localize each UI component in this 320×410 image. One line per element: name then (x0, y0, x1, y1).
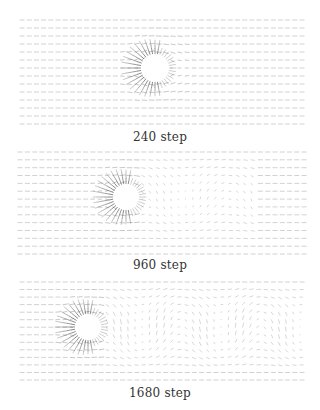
velocity-arrow (286, 297, 289, 298)
velocity-arrow (264, 297, 267, 298)
velocity-arrow (250, 296, 253, 297)
velocity-arrow (70, 342, 74, 343)
velocity-arrow (243, 364, 247, 365)
velocity-arrow (279, 350, 281, 352)
velocity-arrow (60, 331, 63, 332)
velocity-arrow (77, 337, 79, 339)
velocity-arrow (171, 340, 173, 342)
velocity-arrow (214, 357, 217, 358)
velocity-arrow (271, 327, 272, 330)
velocity-arrow (164, 289, 168, 290)
velocity-arrow (279, 297, 282, 299)
velocity-arrow (286, 335, 287, 339)
velocity-arrow (185, 335, 187, 337)
velocity-arrow (207, 290, 210, 291)
velocity-arrow (97, 316, 98, 317)
velocity-arrow (75, 304, 76, 306)
velocity-arrow (228, 340, 229, 342)
velocity-arrow (142, 312, 143, 313)
velocity-arrow (121, 342, 123, 345)
velocity-arrow (71, 306, 73, 308)
velocity-arrow (200, 365, 204, 366)
velocity-arrow (235, 331, 236, 335)
velocity-arrow (113, 335, 114, 338)
velocity-arrow (171, 364, 175, 365)
velocity-arrow (128, 342, 129, 345)
velocity-arrow (100, 320, 101, 321)
velocity-arrow (64, 323, 67, 324)
velocity-arrow (74, 334, 77, 336)
velocity-arrow (279, 342, 281, 345)
velocity-arrow (235, 364, 238, 365)
velocity-arrow (228, 356, 231, 357)
velocity-arrow (214, 312, 215, 314)
velocity-arrow (250, 310, 252, 312)
velocity-arrow (106, 350, 109, 351)
velocity-arrow (113, 357, 116, 358)
velocity-arrow (77, 314, 79, 316)
velocity-arrow (70, 336, 73, 338)
velocity-arrow (64, 331, 67, 332)
velocity-arrow (250, 356, 253, 357)
velocity-arrow (71, 346, 73, 348)
velocity-arrow (286, 320, 287, 324)
velocity-arrow (106, 327, 107, 329)
velocity-arrow (207, 305, 209, 307)
velocity-arrow (164, 316, 165, 320)
velocity-arrow (286, 365, 289, 366)
velocity-arrow (156, 309, 157, 312)
velocity-arrow (164, 323, 165, 327)
velocity-arrow (192, 365, 196, 366)
velocity-arrow (156, 339, 157, 342)
velocity-arrow (121, 335, 122, 339)
velocity-arrow (149, 296, 152, 297)
velocity-arrow (264, 342, 266, 343)
velocity-arrow (69, 320, 72, 321)
velocity-arrow (76, 307, 77, 309)
velocity-arrow (164, 296, 167, 298)
velocity-arrow (279, 365, 283, 366)
velocity-arrow (257, 349, 260, 350)
velocity-arrow (72, 321, 75, 322)
velocity-arrow (156, 316, 157, 320)
velocity-arrow (192, 327, 193, 331)
velocity-arrow (128, 365, 131, 366)
velocity-arrow (228, 364, 231, 365)
velocity-arrow (75, 348, 76, 350)
velocity-arrow (293, 365, 296, 366)
velocity-arrow (100, 342, 101, 343)
velocity-arrow (250, 340, 252, 342)
velocity-arrow (99, 337, 100, 338)
velocity-arrow (149, 310, 150, 312)
velocity-arrow (113, 342, 115, 344)
velocity-arrow (72, 332, 75, 333)
velocity-arrow (60, 322, 63, 323)
velocity-arrow (271, 350, 274, 352)
velocity-arrow (77, 345, 78, 347)
velocity-arrow (257, 311, 259, 312)
velocity-arrow (178, 342, 180, 343)
velocity-arrow (286, 342, 287, 345)
velocity-arrow (178, 312, 180, 313)
velocity-arrow (106, 290, 110, 291)
velocity-arrow (250, 348, 253, 350)
velocity-arrow (102, 335, 103, 336)
velocity-arrow (271, 335, 273, 338)
velocity-arrow (113, 350, 116, 352)
velocity-arrow (101, 338, 102, 339)
velocity-arrow (243, 302, 245, 304)
velocity-arrow (228, 289, 231, 290)
velocity-arrow (207, 350, 209, 352)
velocity-arrow (185, 312, 187, 313)
velocity-arrow (271, 342, 273, 345)
velocity-arrow (264, 312, 266, 313)
velocity-arrow (286, 312, 287, 315)
velocity-arrow (67, 309, 69, 311)
velocity-arrow (171, 296, 174, 297)
velocity-arrow (286, 350, 288, 352)
velocity-arrow (121, 305, 123, 308)
velocity-arrow (286, 305, 288, 307)
velocity-arrow (178, 319, 180, 320)
velocity-arrow (63, 304, 67, 305)
velocity-arrow (171, 310, 173, 312)
